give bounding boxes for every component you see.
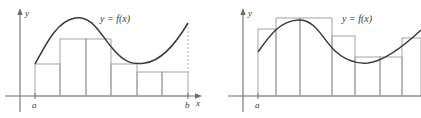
right-chart-svg: y a y = f(x) <box>210 0 421 118</box>
panel-upper-riemann-sum: y a y = f(x) <box>210 0 421 118</box>
right-endpoint-a-label: a <box>255 100 260 110</box>
left-endpoint-a-label: a <box>32 100 37 110</box>
left-curve <box>35 18 188 64</box>
left-y-axis-label: y <box>24 8 29 18</box>
right-rectangles <box>258 18 421 96</box>
left-function-label: y = f(x) <box>99 13 131 25</box>
left-chart-svg: y x a b y = f(x) <box>0 0 210 118</box>
left-endpoint-b-label: b <box>185 100 190 110</box>
panel-lower-riemann-sum: y x a b y = f(x) <box>0 0 210 118</box>
right-y-axis-label: y <box>247 8 252 18</box>
riemann-sum-figure: y x a b y = f(x) <box>0 0 421 118</box>
right-function-label: y = f(x) <box>341 13 373 25</box>
left-x-axis-label: x <box>195 98 200 108</box>
